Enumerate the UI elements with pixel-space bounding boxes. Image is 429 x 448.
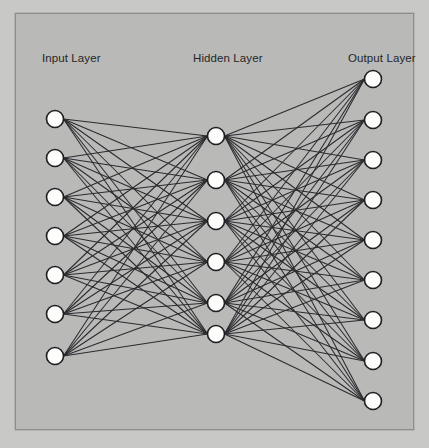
connection-edge: [64, 158, 208, 303]
connection-edge: [64, 262, 208, 356]
hidden-node-5: [208, 295, 225, 312]
edges-input-to-hidden: [64, 119, 208, 356]
hidden-node-3: [208, 213, 225, 230]
hidden-node-1: [208, 128, 225, 145]
connection-edge: [225, 136, 365, 320]
hidden-node-6: [208, 326, 225, 343]
output-node-9: [365, 393, 382, 410]
connection-edge: [64, 236, 208, 334]
input-node-4: [47, 228, 64, 245]
output-node-1: [365, 71, 382, 88]
connection-edge: [64, 334, 208, 356]
connection-edge: [64, 119, 208, 136]
connection-edge: [64, 119, 208, 180]
edges-hidden-to-output: [225, 79, 365, 401]
input-node-2: [47, 150, 64, 167]
connection-edge: [225, 79, 365, 136]
connection-edge: [64, 221, 208, 236]
output-node-7: [365, 312, 382, 329]
input-node-3: [47, 189, 64, 206]
output-node-4: [365, 192, 382, 209]
network-graph: [16, 14, 415, 431]
connection-edge: [64, 221, 208, 356]
output-node-2: [365, 112, 382, 129]
input-layer-label: Input Layer: [42, 51, 101, 65]
output-layer-label: Output Layer: [348, 51, 416, 65]
input-layer-nodes: [47, 111, 64, 365]
output-layer-nodes: [365, 71, 382, 410]
output-node-8: [365, 353, 382, 370]
connection-edge: [225, 334, 365, 361]
hidden-node-2: [208, 172, 225, 189]
diagram-panel: Input Layer Hidden Layer Output Layer: [15, 13, 414, 430]
neural-network-figure: Input Layer Hidden Layer Output Layer: [0, 0, 429, 448]
hidden-layer-label: Hidden Layer: [193, 51, 263, 65]
connection-edge: [225, 200, 365, 334]
input-node-6: [47, 306, 64, 323]
input-node-5: [47, 267, 64, 284]
output-node-6: [365, 272, 382, 289]
output-node-5: [365, 232, 382, 249]
connection-edge: [64, 314, 208, 334]
hidden-node-4: [208, 254, 225, 271]
input-node-1: [47, 111, 64, 128]
connection-edge: [225, 79, 365, 221]
hidden-layer-nodes: [208, 128, 225, 343]
input-node-7: [47, 348, 64, 365]
output-node-3: [365, 152, 382, 169]
